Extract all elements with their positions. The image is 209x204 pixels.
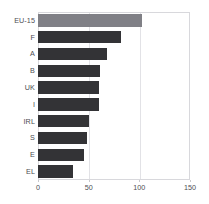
bar-eu-15[interactable] — [38, 14, 142, 26]
bar-row — [38, 29, 190, 46]
bar-row — [38, 96, 190, 113]
category-label-f: F — [31, 33, 36, 42]
category-label-e: E — [30, 150, 35, 159]
bar-row — [38, 62, 190, 79]
category-label-row: S — [0, 130, 35, 147]
bar-f[interactable] — [38, 31, 121, 43]
bar-row — [38, 130, 190, 147]
category-label-row: A — [0, 46, 35, 63]
category-label-row: EU-15 — [0, 12, 35, 29]
bar-b[interactable] — [38, 65, 100, 77]
xtick-label-100: 100 — [133, 183, 145, 192]
category-label-row: F — [0, 29, 35, 46]
category-label-row: IRL — [0, 113, 35, 130]
bar-chart: EU-15FABUKIIRLSEEL 050100150 — [0, 0, 209, 204]
bar-row — [38, 146, 190, 163]
bar-row — [38, 46, 190, 63]
category-label-irl: IRL — [24, 117, 36, 126]
category-label-row: EL — [0, 163, 35, 180]
category-label-i: I — [33, 100, 35, 109]
bar-row — [38, 12, 190, 29]
bar-row — [38, 79, 190, 96]
value-axis: 050100150 — [38, 180, 190, 196]
bar-uk[interactable] — [38, 81, 99, 93]
bar-i[interactable] — [38, 98, 99, 110]
category-label-row: I — [0, 96, 35, 113]
category-label-row: UK — [0, 79, 35, 96]
bars-layer — [38, 12, 190, 180]
xtick-mark-50 — [89, 180, 90, 182]
xtick-mark-150 — [190, 180, 191, 182]
category-label-row: E — [0, 146, 35, 163]
xtick-mark-100 — [139, 180, 140, 182]
xtick-label-150: 150 — [184, 183, 196, 192]
category-label-eu-15: EU-15 — [14, 16, 35, 25]
xtick-label-50: 50 — [85, 183, 93, 192]
xtick-mark-0 — [38, 180, 39, 182]
category-label-b: B — [30, 66, 35, 75]
category-label-s: S — [30, 133, 35, 142]
bar-el[interactable] — [38, 165, 73, 177]
category-label-row: B — [0, 62, 35, 79]
category-label-a: A — [30, 49, 35, 58]
bar-s[interactable] — [38, 132, 87, 144]
xtick-label-0: 0 — [36, 183, 40, 192]
category-label-uk: UK — [25, 83, 35, 92]
category-axis-labels: EU-15FABUKIIRLSEEL — [0, 12, 35, 180]
bar-row — [38, 163, 190, 180]
bar-row — [38, 113, 190, 130]
bar-e[interactable] — [38, 149, 84, 161]
bar-irl[interactable] — [38, 115, 89, 127]
bar-a[interactable] — [38, 48, 107, 60]
category-label-el: EL — [26, 167, 35, 176]
